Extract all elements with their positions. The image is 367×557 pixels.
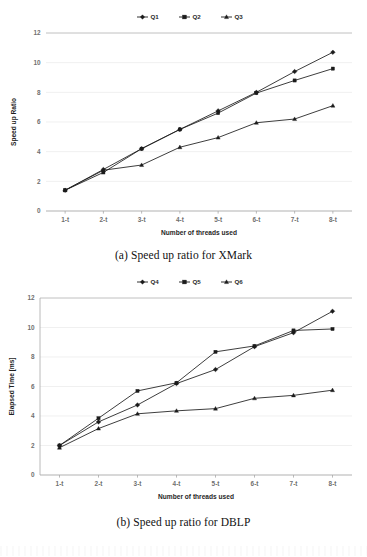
y-tick-label-0: 0: [37, 207, 41, 214]
data-point-diamond-Q4-1: [96, 420, 101, 425]
y-tick-label-12: 12: [27, 294, 35, 301]
y-tick-label-6: 6: [31, 383, 35, 390]
data-point-square-Q5-2: [136, 389, 139, 392]
x-tick-label-8-t: 8-t: [329, 216, 338, 223]
data-point-square-Q2-6: [293, 79, 296, 82]
figure-container: Q1Q2Q30246810121-t2-t3-t4-t5-t6-t7-t8-tN…: [0, 0, 367, 528]
x-axis-title: Number of threads used: [161, 229, 237, 236]
y-tick-label-4: 4: [37, 148, 41, 155]
scan-artifact: [0, 546, 367, 556]
x-axis-labels: 1-t2-t3-t4-t5-t6-t7-t8-t: [61, 211, 337, 223]
series-Q3: [63, 104, 335, 192]
legend-label-Q4: Q4: [151, 278, 160, 285]
chart-block-a: Q1Q2Q30246810121-t2-t3-t4-t5-t6-t7-t8-tN…: [0, 0, 367, 248]
x-tick-label-4-t: 4-t: [173, 480, 182, 487]
data-point-diamond-Q4-4: [213, 367, 218, 372]
y-tick-label-12: 12: [33, 29, 41, 36]
series-line-Q6: [60, 390, 333, 448]
data-point-diamond-Q1-6: [292, 69, 297, 74]
series-line-Q2: [65, 69, 333, 191]
legend-marker-Q2: [183, 15, 187, 19]
legend-label-Q5: Q5: [193, 278, 202, 285]
x-axis-labels: 1-t2-t3-t4-t5-t6-t7-t8-t: [56, 475, 338, 487]
y-tick-label-6: 6: [37, 118, 41, 125]
y-axis-title: Speed up Ratio: [10, 98, 18, 146]
x-tick-label-7-t: 7-t: [291, 216, 300, 223]
x-tick-label-6-t: 6-t: [252, 216, 261, 223]
data-point-diamond-Q4-7: [330, 309, 335, 314]
series-line-Q3: [65, 106, 333, 191]
data-point-square-Q2-3: [178, 128, 181, 131]
x-tick-label-5-t: 5-t: [212, 480, 221, 487]
y-gridlines: 024681012: [33, 29, 352, 214]
x-tick-label-4-t: 4-t: [176, 216, 185, 223]
x-tick-label-1-t: 1-t: [61, 216, 70, 223]
data-point-square-Q2-4: [217, 112, 220, 115]
chart-b-canvas: Q4Q5Q60246810121-t2-t3-t4-t5-t6-t7-t8-tN…: [0, 267, 367, 515]
data-point-square-Q5-6: [292, 329, 295, 332]
figure-page: Q1Q2Q30246810121-t2-t3-t4-t5-t6-t7-t8-tN…: [0, 0, 367, 557]
series-Q2: [64, 67, 335, 192]
y-tick-label-2: 2: [37, 178, 41, 185]
y-tick-label-10: 10: [27, 324, 35, 331]
x-tick-label-7-t: 7-t: [290, 480, 299, 487]
x-tick-label-2-t: 2-t: [95, 480, 104, 487]
legend-label-Q6: Q6: [235, 278, 244, 285]
data-point-square-Q2-5: [255, 91, 258, 94]
data-point-square-Q5-7: [331, 327, 334, 330]
y-tick-label-2: 2: [31, 442, 35, 449]
chart-a-caption: (a) Speed up ratio for XMark: [0, 249, 367, 261]
y-gridlines: 024681012: [27, 294, 352, 478]
chart-legend: Q1Q2Q3: [137, 13, 243, 20]
data-point-square-Q5-5: [253, 344, 256, 347]
x-tick-label-3-t: 3-t: [138, 216, 147, 223]
chart-block-b: Q4Q5Q60246810121-t2-t3-t4-t5-t6-t7-t8-tN…: [0, 267, 367, 515]
y-tick-label-8: 8: [31, 353, 35, 360]
x-tick-label-1-t: 1-t: [56, 480, 65, 487]
x-tick-label-8-t: 8-t: [329, 480, 338, 487]
y-tick-label-0: 0: [31, 471, 35, 478]
data-point-square-Q2-2: [140, 147, 143, 150]
legend-label-Q2: Q2: [193, 13, 202, 20]
y-axis-title: Elapsed Time [ms]: [8, 357, 16, 415]
y-tick-label-10: 10: [33, 59, 41, 66]
data-point-triangle-Q6-7: [330, 388, 334, 392]
legend-label-Q3: Q3: [235, 13, 244, 20]
data-point-triangle-Q3-7: [331, 104, 335, 108]
legend-marker-Q4: [140, 280, 144, 284]
y-tick-label-4: 4: [31, 412, 35, 419]
chart-b-caption: (b) Speed up ratio for DBLP: [0, 516, 367, 528]
x-tick-label-3-t: 3-t: [134, 480, 143, 487]
data-point-diamond-Q4-2: [135, 403, 140, 408]
x-tick-label-6-t: 6-t: [251, 480, 260, 487]
legend-marker-Q5: [183, 280, 187, 284]
x-tick-label-2-t: 2-t: [99, 216, 108, 223]
data-point-square-Q5-1: [97, 417, 100, 420]
y-tick-label-8: 8: [37, 89, 41, 96]
chart-a-canvas: Q1Q2Q30246810121-t2-t3-t4-t5-t6-t7-t8-tN…: [0, 0, 367, 248]
legend-marker-Q1: [140, 15, 144, 19]
data-point-square-Q5-3: [175, 381, 178, 384]
data-point-square-Q5-4: [214, 350, 217, 353]
x-axis-title: Number of threads used: [158, 493, 234, 500]
data-point-square-Q2-7: [331, 67, 334, 70]
x-tick-label-5-t: 5-t: [214, 216, 223, 223]
chart-legend: Q4Q5Q6: [137, 278, 243, 285]
data-point-diamond-Q1-7: [331, 50, 336, 55]
legend-label-Q1: Q1: [151, 13, 160, 20]
